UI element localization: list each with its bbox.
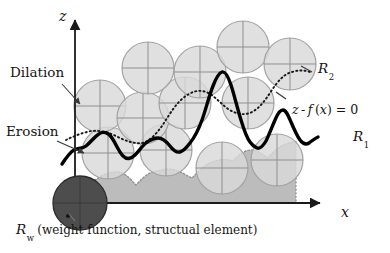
- circle-disk: [122, 42, 174, 94]
- rw-note: (weight function, structual element): [37, 223, 257, 237]
- circle-disk: [264, 38, 316, 90]
- r1-label-text: R: [353, 128, 363, 144]
- surface-equation-label: z - f (x) = 0: [292, 104, 358, 117]
- morphology-figure: Dilation Erosion R2 R1 z - f (x) = 0 Rw …: [0, 0, 390, 253]
- rw-label-text: R: [16, 221, 26, 237]
- weight-function-caption: Rw (weight function, structual element): [16, 221, 257, 240]
- equation-z: z: [292, 102, 299, 117]
- circle-disk: [217, 21, 269, 73]
- erosion-label: Erosion: [6, 125, 59, 139]
- structuring-element-circles-upper: [74, 21, 316, 144]
- r1-label-subscript: 1: [364, 140, 369, 150]
- r2-label-subscript: 2: [329, 72, 334, 82]
- z-axis-label: z: [59, 9, 66, 23]
- circle-disk: [196, 142, 248, 194]
- x-axis-label: x: [341, 205, 349, 219]
- r2-label-text: R: [318, 60, 328, 76]
- r1-label: R1: [353, 130, 369, 146]
- r2-label: R2: [318, 62, 334, 78]
- rw-label-subscript: w: [27, 233, 34, 243]
- equation-equals-zero: = 0: [336, 102, 358, 117]
- equation-x: x: [320, 102, 327, 117]
- dilation-label: Dilation: [10, 66, 64, 80]
- equation-leader: [276, 92, 286, 99]
- circle-disk: [251, 134, 303, 186]
